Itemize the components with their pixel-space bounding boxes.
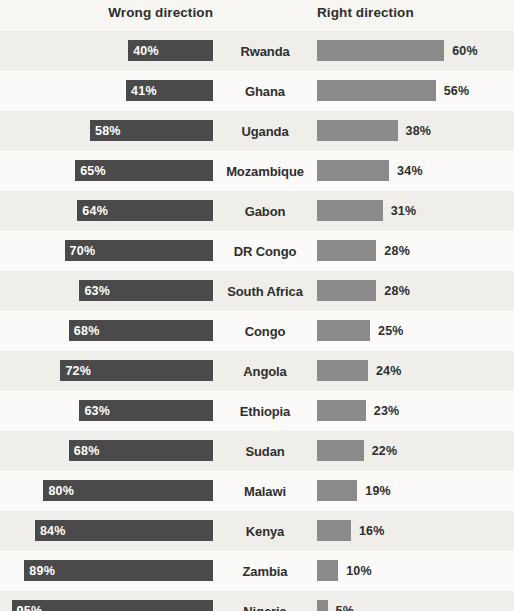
bar-value-label: 23% [374, 404, 400, 418]
right-direction-cell: 38% [317, 111, 514, 151]
chart-row: 63%Ethiopia23% [0, 391, 514, 431]
right-direction-cell: 24% [317, 351, 514, 391]
wrong-direction-cell: 68% [0, 431, 213, 471]
country-label: South Africa [213, 271, 317, 311]
bar-value-label: 34% [397, 164, 423, 178]
bar-value-label: 38% [406, 124, 432, 138]
wrong-direction-cell: 84% [0, 511, 213, 551]
country-label: Zambia [213, 551, 317, 591]
bar-value-label: 25% [378, 324, 404, 338]
bar-value-label: 72% [65, 364, 91, 378]
bar-value-label: 10% [346, 564, 372, 578]
bar-right-direction [317, 80, 436, 101]
country-label: Gabon [213, 191, 317, 231]
right-direction-cell: 25% [317, 311, 514, 351]
bar-value-label: 58% [95, 124, 121, 138]
right-direction-cell: 23% [317, 391, 514, 431]
bar-right-direction [317, 120, 398, 141]
right-direction-cell: 31% [317, 191, 514, 231]
chart-row: 41%Ghana56% [0, 71, 514, 111]
right-direction-cell: 28% [317, 271, 514, 311]
bar-value-label: 40% [133, 44, 159, 58]
bar-wrong-direction: 65% [75, 160, 213, 181]
bar-right-direction [317, 40, 444, 61]
right-direction-cell: 5% [317, 591, 514, 611]
country-label: Congo [213, 311, 317, 351]
bar-right-direction [317, 280, 376, 301]
wrong-direction-cell: 68% [0, 311, 213, 351]
chart-row: 95%Nigeria5% [0, 591, 514, 611]
right-direction-cell: 28% [317, 231, 514, 271]
wrong-direction-cell: 72% [0, 351, 213, 391]
chart-row: 58%Uganda38% [0, 111, 514, 151]
right-direction-cell: 60% [317, 31, 514, 71]
bar-value-label: 22% [372, 444, 398, 458]
wrong-direction-cell: 58% [0, 111, 213, 151]
chart-row: 89%Zambia10% [0, 551, 514, 591]
country-label: Ethiopia [213, 391, 317, 431]
bar-value-label: 64% [82, 204, 108, 218]
bar-value-label: 80% [48, 484, 74, 498]
diverging-bar-chart: Wrong direction Right direction 40%Rwand… [0, 0, 514, 611]
wrong-direction-cell: 63% [0, 271, 213, 311]
chart-row: 70%DR Congo28% [0, 231, 514, 271]
chart-row: 84%Kenya16% [0, 511, 514, 551]
country-label: Rwanda [213, 31, 317, 71]
right-direction-cell: 16% [317, 511, 514, 551]
wrong-direction-cell: 70% [0, 231, 213, 271]
bar-wrong-direction: 80% [43, 480, 213, 501]
bar-value-label: 63% [84, 404, 110, 418]
chart-row: 63%South Africa28% [0, 271, 514, 311]
bar-right-direction [317, 600, 328, 611]
bar-value-label: 41% [131, 84, 157, 98]
bar-wrong-direction: 68% [69, 320, 213, 341]
bar-right-direction [317, 160, 389, 181]
bar-right-direction [317, 240, 376, 261]
right-direction-cell: 56% [317, 71, 514, 111]
bar-value-label: 68% [74, 324, 100, 338]
country-label: Malawi [213, 471, 317, 511]
chart-row: 80%Malawi19% [0, 471, 514, 511]
chart-row: 40%Rwanda60% [0, 31, 514, 71]
bar-value-label: 19% [365, 484, 391, 498]
chart-row: 68%Congo25% [0, 311, 514, 351]
bar-wrong-direction: 68% [69, 440, 213, 461]
bar-value-label: 63% [84, 284, 110, 298]
bar-value-label: 89% [29, 564, 55, 578]
bar-wrong-direction: 40% [128, 40, 213, 61]
wrong-direction-cell: 80% [0, 471, 213, 511]
bar-wrong-direction: 72% [60, 360, 213, 381]
right-direction-cell: 34% [317, 151, 514, 191]
bar-value-label: 28% [384, 284, 410, 298]
wrong-direction-cell: 95% [0, 591, 213, 611]
bar-value-label: 24% [376, 364, 402, 378]
bar-right-direction [317, 560, 338, 581]
bar-value-label: 5% [336, 604, 354, 611]
bar-value-label: 16% [359, 524, 385, 538]
legend-label-wrong-direction: Wrong direction [0, 5, 213, 20]
country-label: Kenya [213, 511, 317, 551]
chart-row: 65%Mozambique34% [0, 151, 514, 191]
bar-value-label: 56% [444, 84, 470, 98]
bar-wrong-direction: 63% [79, 400, 213, 421]
bar-right-direction [317, 360, 368, 381]
right-direction-cell: 10% [317, 551, 514, 591]
bar-right-direction [317, 400, 366, 421]
right-direction-cell: 22% [317, 431, 514, 471]
country-label: DR Congo [213, 231, 317, 271]
bar-wrong-direction: 70% [65, 240, 213, 261]
wrong-direction-cell: 40% [0, 31, 213, 71]
bar-value-label: 68% [74, 444, 100, 458]
country-label: Sudan [213, 431, 317, 471]
bar-value-label: 95% [17, 604, 43, 611]
bar-wrong-direction: 63% [79, 280, 213, 301]
wrong-direction-cell: 64% [0, 191, 213, 231]
bar-right-direction [317, 320, 370, 341]
bar-value-label: 65% [80, 164, 106, 178]
country-label: Ghana [213, 71, 317, 111]
bar-value-label: 28% [384, 244, 410, 258]
bar-right-direction [317, 200, 383, 221]
chart-row: 72%Angola24% [0, 351, 514, 391]
bar-right-direction [317, 440, 364, 461]
bar-wrong-direction: 58% [90, 120, 213, 141]
